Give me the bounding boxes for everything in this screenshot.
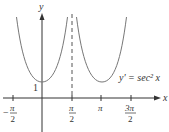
- svg-text:π: π: [10, 103, 15, 113]
- y-axis: y: [38, 1, 45, 132]
- x-axis: x: [3, 92, 168, 103]
- x-tick-label-pi-over-2: π 2: [69, 103, 76, 124]
- svg-text:3π: 3π: [124, 103, 135, 113]
- x-tick-label-pi: π: [98, 103, 103, 113]
- y-axis-label: y: [38, 1, 44, 12]
- svg-text:π: π: [69, 103, 74, 113]
- y-tick-label-1: 1: [33, 82, 38, 93]
- svg-text:2: 2: [70, 114, 75, 124]
- x-tick-label-3pi-over-2: 3π 2: [124, 103, 136, 124]
- svg-text:2: 2: [128, 114, 133, 124]
- svg-text:−: −: [3, 107, 9, 118]
- x-axis-arrow-icon: [154, 96, 161, 101]
- svg-text:π: π: [98, 103, 103, 113]
- y-axis-arrow-icon: [40, 13, 45, 20]
- x-axis-label: x: [162, 92, 168, 103]
- sec-squared-graph: x y 1 y' = sec² x − π 2 π 2 π 3π 2: [0, 0, 169, 132]
- svg-text:2: 2: [11, 114, 16, 124]
- function-label: y' = sec² x: [118, 72, 161, 83]
- x-tick-label-neg-pi-over-2: − π 2: [3, 103, 17, 124]
